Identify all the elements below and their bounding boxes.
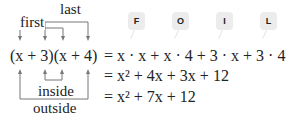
step-2: = x² + 4x + 3x + 12 (104, 68, 229, 84)
badge-first: F (128, 12, 145, 30)
expression-lhs: (x + 3)(x + 4) (10, 48, 97, 64)
badge-outside: O (172, 12, 189, 30)
step-3: = x² + 7x + 12 (104, 89, 196, 105)
label-first: first (19, 15, 45, 30)
label-outside: outside (33, 101, 76, 116)
label-inside: inside (38, 84, 74, 99)
badge-last: L (260, 12, 277, 30)
label-last: last (60, 2, 81, 17)
badge-inside: I (216, 12, 233, 30)
step-1: = x · x + x · 4 + 3 · x + 3 · 4 (104, 48, 285, 64)
